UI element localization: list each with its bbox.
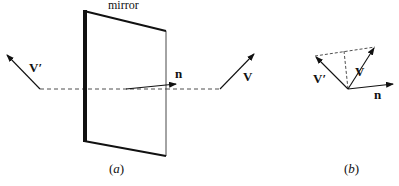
incident-vector-label: V: [243, 70, 252, 83]
caption-a: (a): [109, 162, 124, 175]
dashed-top-line: [315, 47, 375, 56]
mirror-label: mirror: [108, 0, 139, 11]
panel-a: [7, 10, 254, 156]
reflected-vector-label-b: V′: [313, 72, 326, 85]
reflected-vector-label: V′: [29, 61, 42, 74]
incident-vector-label-b: V: [355, 65, 364, 78]
diagram-canvas: [0, 0, 399, 186]
normal-vector-label: n: [175, 67, 182, 80]
caption-b: (b): [344, 162, 359, 175]
normal-vector-label-b: n: [374, 88, 381, 101]
normal-vector-arrow-b: [348, 84, 393, 89]
dashed-bisector-line: [344, 51, 348, 89]
panel-b: [315, 47, 393, 89]
mirror: [84, 10, 166, 156]
